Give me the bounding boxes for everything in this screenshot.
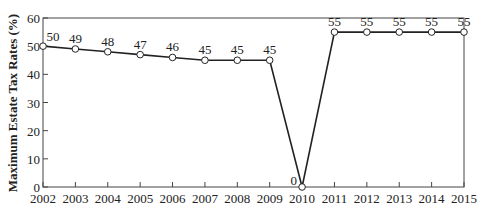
estate-tax-line-chart: 0102030405060 20022003200420052006200720… bbox=[0, 0, 486, 214]
x-tick-label: 2005 bbox=[127, 191, 153, 206]
data-point-marker bbox=[266, 57, 273, 64]
x-tick-label: 2007 bbox=[192, 191, 219, 206]
data-label: 49 bbox=[69, 31, 82, 46]
data-label: 55 bbox=[393, 14, 406, 29]
x-tick-label: 2014 bbox=[419, 191, 446, 206]
data-point-marker bbox=[461, 29, 468, 36]
data-point-marker bbox=[72, 46, 79, 53]
y-tick-label: 20 bbox=[27, 124, 40, 139]
x-tick-label: 2006 bbox=[160, 191, 187, 206]
data-label: 45 bbox=[263, 42, 276, 57]
data-label: 45 bbox=[231, 42, 244, 57]
x-tick-label: 2010 bbox=[289, 191, 315, 206]
chart-canvas: 0102030405060 20022003200420052006200720… bbox=[0, 0, 486, 214]
y-tick-label: 50 bbox=[27, 39, 40, 54]
y-tick-label: 40 bbox=[27, 67, 40, 82]
data-label: 55 bbox=[458, 14, 471, 29]
series-line bbox=[43, 32, 464, 187]
x-tick-label: 2015 bbox=[451, 191, 477, 206]
data-point-marker bbox=[299, 184, 306, 191]
y-tick-label: 10 bbox=[27, 152, 40, 167]
data-label: 50 bbox=[47, 29, 60, 44]
y-axis: 0102030405060 bbox=[27, 11, 48, 195]
data-point-marker bbox=[40, 43, 47, 50]
x-tick-label: 2003 bbox=[62, 191, 88, 206]
data-point-marker bbox=[234, 57, 241, 64]
data-point-marker bbox=[428, 29, 435, 36]
data-point-marker bbox=[169, 54, 176, 61]
data-point-marker bbox=[104, 49, 111, 56]
data-label: 55 bbox=[360, 14, 373, 29]
data-labels: 504948474645454505555555555 bbox=[47, 14, 471, 188]
data-series bbox=[40, 29, 468, 191]
data-label: 45 bbox=[198, 42, 211, 57]
y-axis-label: Maximum Estate Tax Rates (%) bbox=[5, 14, 20, 192]
data-label: 0 bbox=[291, 173, 298, 188]
data-point-marker bbox=[202, 57, 209, 64]
data-label: 48 bbox=[101, 34, 114, 49]
y-tick-label: 30 bbox=[27, 96, 40, 111]
data-point-marker bbox=[137, 51, 144, 58]
x-tick-label: 2009 bbox=[257, 191, 283, 206]
data-label: 46 bbox=[166, 39, 180, 54]
data-label: 47 bbox=[134, 37, 148, 52]
data-point-marker bbox=[331, 29, 338, 36]
x-tick-label: 2002 bbox=[30, 191, 56, 206]
x-tick-label: 2004 bbox=[95, 191, 122, 206]
x-tick-label: 2008 bbox=[224, 191, 250, 206]
x-tick-label: 2013 bbox=[386, 191, 412, 206]
x-axis: 2002200320042005200620072008200920102011… bbox=[30, 182, 477, 206]
x-tick-label: 2011 bbox=[322, 191, 348, 206]
data-point-marker bbox=[396, 29, 403, 36]
x-tick-label: 2012 bbox=[354, 191, 380, 206]
y-tick-label: 60 bbox=[27, 11, 40, 26]
data-point-marker bbox=[364, 29, 371, 36]
data-label: 55 bbox=[328, 14, 341, 29]
data-label: 55 bbox=[425, 14, 438, 29]
